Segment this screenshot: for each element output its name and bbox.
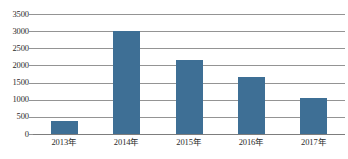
y-axis-tick-label: 0 [0, 130, 29, 139]
bar [51, 121, 78, 134]
bar-series [33, 14, 345, 134]
y-axis-tick-label: 3000 [0, 27, 29, 36]
x-axis-tick-label: 2014年 [95, 137, 157, 148]
y-axis-tick-labels: 0500100015002000250030003500 [0, 0, 29, 159]
y-axis-tick-label: 1000 [0, 95, 29, 104]
bar [238, 77, 265, 134]
y-axis-tick-mark [29, 31, 33, 32]
y-axis-tick-label: 500 [0, 112, 29, 121]
y-axis-tick-mark [29, 65, 33, 66]
bar [300, 98, 327, 134]
x-axis-tick-label: 2017年 [283, 137, 345, 148]
x-axis-tick-label: 2016年 [220, 137, 282, 148]
x-axis-tick-labels: 2013年2014年2015年2016年2017年 [33, 137, 345, 153]
y-axis-tick-mark [29, 48, 33, 49]
bar-chart: 0500100015002000250030003500 2013年2014年2… [0, 0, 348, 159]
y-axis-tick-mark [29, 83, 33, 84]
bar [113, 31, 140, 134]
bar [176, 60, 203, 134]
y-axis-tick-mark [29, 117, 33, 118]
y-axis-tick-label: 2000 [0, 61, 29, 70]
x-axis-tick-label: 2015年 [158, 137, 220, 148]
gridline [33, 134, 345, 135]
y-axis-tick-label: 3500 [0, 10, 29, 19]
plot-area [33, 14, 345, 134]
y-axis-tick-mark [29, 100, 33, 101]
y-axis-tick-label: 2500 [0, 44, 29, 53]
x-axis-tick-label: 2013年 [33, 137, 95, 148]
y-axis-tick-mark [29, 134, 33, 135]
y-axis-tick-label: 1500 [0, 78, 29, 87]
y-axis-tick-mark [29, 14, 33, 15]
